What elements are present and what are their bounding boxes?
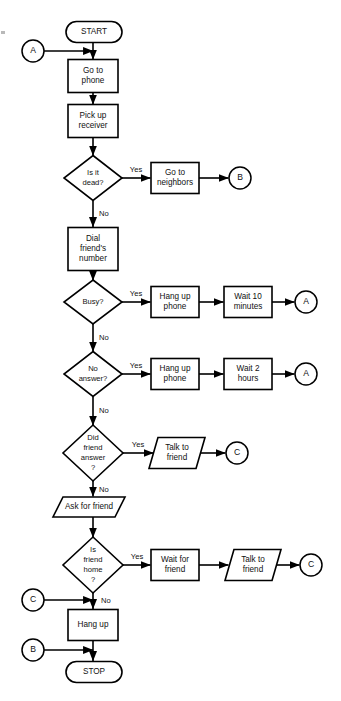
node-label: Busy? bbox=[82, 297, 103, 306]
label-home-yes: Yes bbox=[131, 552, 144, 561]
node-label: Did bbox=[87, 433, 98, 442]
node-label: Go to bbox=[165, 168, 185, 177]
node-label: STOP bbox=[83, 667, 106, 676]
node-label: phone bbox=[164, 374, 187, 383]
label-busy-yes: Yes bbox=[130, 289, 143, 298]
node-talk-to-friend-2: Talk tofriend bbox=[225, 550, 281, 581]
node-label: friend's bbox=[80, 244, 106, 253]
node-label: Talk to bbox=[241, 555, 265, 564]
node-stop: STOP bbox=[66, 662, 122, 683]
node-label: Wait 10 bbox=[234, 292, 262, 301]
connector-label: B bbox=[237, 172, 243, 182]
connector-a-busy: A bbox=[295, 291, 317, 313]
node-label: Ask for friend bbox=[65, 502, 114, 511]
label-dead-yes: Yes bbox=[130, 165, 143, 174]
node-busy: Busy? bbox=[64, 280, 122, 324]
node-label: home bbox=[84, 565, 103, 574]
node-label: friend bbox=[165, 565, 186, 574]
connector-c-talk1: C bbox=[226, 442, 248, 464]
node-label: neighbors bbox=[157, 178, 193, 187]
connector-label: C bbox=[234, 447, 240, 457]
connector-a-top: A bbox=[22, 40, 44, 62]
node-label: minutes bbox=[234, 302, 263, 311]
node-go-to-neighbors: Go toneighbors bbox=[151, 163, 199, 194]
node-label: ? bbox=[91, 463, 95, 472]
node-label: Dial bbox=[86, 234, 100, 243]
connector-c-left: C bbox=[22, 589, 44, 611]
node-label: Wait for bbox=[161, 555, 189, 564]
node-label: START bbox=[81, 27, 107, 36]
label-didanswer-yes: Yes bbox=[132, 440, 145, 449]
connector-b-left: B bbox=[22, 639, 44, 661]
node-go-to-phone: Go tophone bbox=[68, 60, 118, 93]
node-label: ? bbox=[91, 575, 95, 584]
connector-label: C bbox=[30, 594, 36, 604]
connector-label: A bbox=[30, 45, 36, 55]
connector-label: B bbox=[30, 644, 36, 654]
node-label: friend bbox=[84, 443, 103, 452]
flowchart-diagram: STARTGo tophonePick upreceiverIs itdead?… bbox=[0, 0, 341, 701]
node-label: Wait 2 bbox=[237, 364, 260, 373]
connector-label: A bbox=[303, 296, 309, 306]
node-label: dead? bbox=[82, 178, 103, 187]
node-wait-10-minutes: Wait 10minutes bbox=[224, 287, 272, 318]
node-label: answer bbox=[81, 453, 106, 462]
node-pick-up-receiver: Pick upreceiver bbox=[68, 105, 118, 138]
node-label: answer? bbox=[79, 374, 108, 383]
connector-b-right: B bbox=[229, 167, 251, 189]
node-label: Talk to bbox=[165, 443, 189, 452]
node-wait-for-friend: Wait forfriend bbox=[151, 550, 199, 581]
node-hang-up-phone-1: Hang upphone bbox=[151, 287, 199, 318]
node-label: Is bbox=[90, 545, 96, 554]
node-label: Go to bbox=[83, 66, 103, 75]
node-label: Hang up bbox=[160, 292, 191, 301]
connector-label: A bbox=[303, 368, 309, 378]
node-label: phone bbox=[164, 302, 187, 311]
node-ask-for-friend: Ask for friend bbox=[53, 497, 125, 517]
scan-artifact bbox=[1, 31, 5, 34]
connector-label: C bbox=[308, 559, 314, 569]
label-didanswer-no: No bbox=[99, 485, 109, 494]
node-label: Is it bbox=[87, 168, 100, 177]
connector-a-answer: A bbox=[295, 363, 317, 385]
node-no-answer: Noanswer? bbox=[64, 352, 122, 397]
node-label: No bbox=[88, 364, 98, 373]
label-dead-no: No bbox=[99, 209, 109, 218]
node-is-it-dead: Is itdead? bbox=[64, 156, 122, 201]
node-talk-to-friend-1: Talk tofriend bbox=[149, 438, 205, 469]
node-label: Pick up bbox=[80, 111, 107, 120]
node-is-friend-home: Isfriendhome? bbox=[63, 537, 123, 593]
node-label: friend bbox=[243, 565, 264, 574]
node-label: friend bbox=[84, 555, 103, 564]
node-label: hours bbox=[238, 374, 258, 383]
node-label: friend bbox=[167, 453, 188, 462]
label-noanswer-yes: Yes bbox=[130, 361, 143, 370]
node-label: receiver bbox=[78, 121, 107, 130]
node-wait-2-hours: Wait 2hours bbox=[224, 359, 272, 390]
node-hang-up: Hang up bbox=[68, 610, 118, 641]
label-busy-no: No bbox=[99, 333, 109, 342]
nodes-layer: STARTGo tophonePick upreceiverIs itdead?… bbox=[53, 22, 281, 683]
node-start: START bbox=[66, 22, 122, 43]
flowchart-canvas: STARTGo tophonePick upreceiverIs itdead?… bbox=[0, 0, 341, 701]
node-hang-up-phone-2: Hang upphone bbox=[151, 359, 199, 390]
node-did-friend-answer: Didfriendanswer? bbox=[63, 425, 123, 481]
node-label: Hang up bbox=[78, 620, 109, 629]
label-home-no: No bbox=[101, 596, 111, 605]
connector-c-talk2: C bbox=[300, 554, 322, 576]
node-label: Hang up bbox=[160, 364, 191, 373]
node-label: phone bbox=[82, 76, 105, 85]
node-label: number bbox=[79, 254, 107, 263]
label-noanswer-no: No bbox=[99, 406, 109, 415]
node-dial-number: Dialfriend'snumber bbox=[68, 228, 118, 271]
